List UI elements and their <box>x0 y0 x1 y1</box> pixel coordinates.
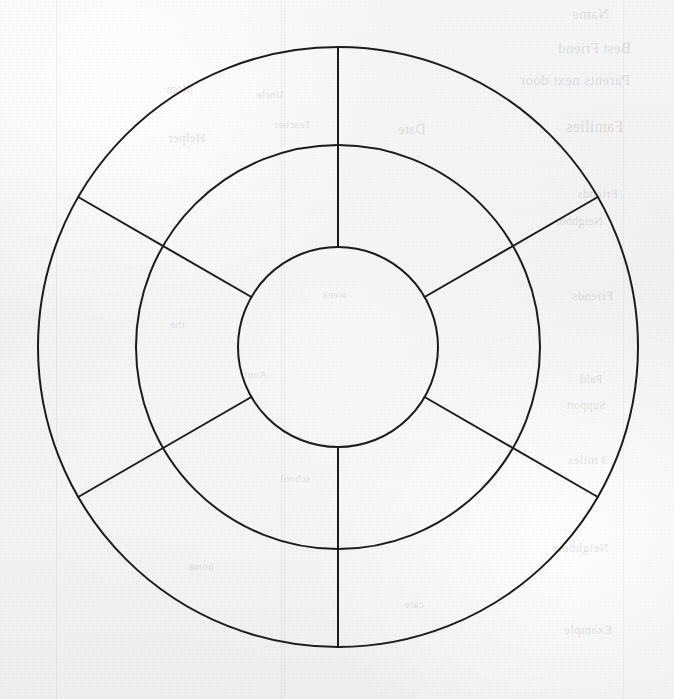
radial-spoke-330deg <box>425 397 598 497</box>
circles-of-support-diagram <box>0 0 674 699</box>
radial-spoke-30deg <box>425 197 598 297</box>
diagram-strokes <box>38 47 638 647</box>
radial-spoke-150deg <box>78 197 251 297</box>
radial-spoke-210deg <box>78 397 251 497</box>
inner-circle <box>238 247 438 447</box>
worksheet-page: NameBest FriendParents next doorFamilies… <box>0 0 674 699</box>
